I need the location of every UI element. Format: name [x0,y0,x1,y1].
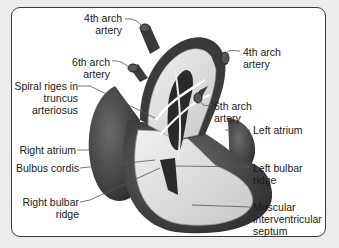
label-6th-arch-artery-left: 6th arch artery [68,56,110,80]
label-6th-arch-artery-right: 6th arch artery [214,100,252,124]
label-4th-arch-artery-left: 4th arch artery [80,12,122,36]
label-left-bulbar-ridge: Left bulbar ridge [253,162,303,186]
label-4th-arch-artery-right: 4th arch artery [243,46,281,70]
label-bulbus-cordis: Bulbus cordis [4,162,79,174]
label-muscular-interventricular-septum: Muscular interventricular septum [253,201,322,237]
label-left-atrium: Left atrium [253,124,303,136]
label-right-bulbar-ridge: Right bulbar ridge [4,196,79,220]
label-right-atrium: Right atrium [4,144,76,156]
label-spiral-ridges: Spiral riges in truncus arteriosus [4,80,78,116]
